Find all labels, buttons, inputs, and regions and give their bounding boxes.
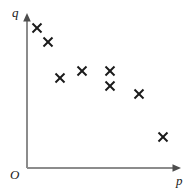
data-point-8	[159, 133, 168, 142]
data-point-4	[78, 67, 87, 76]
data-point-1	[33, 24, 42, 33]
y-axis-arrowhead	[23, 13, 31, 22]
x-axis-label: p	[176, 174, 183, 187]
axes-group	[23, 13, 181, 172]
scatter-plot-figure: q p O	[0, 0, 193, 196]
plot-canvas	[0, 0, 193, 196]
data-point-2	[44, 38, 53, 47]
data-point-3	[56, 74, 65, 83]
y-axis-label: q	[12, 6, 19, 19]
data-point-7	[135, 90, 144, 99]
data-point-5	[106, 67, 115, 76]
origin-label: O	[10, 168, 19, 181]
data-markers-group	[33, 24, 168, 142]
x-axis-arrowhead	[173, 164, 182, 172]
data-point-6	[106, 82, 115, 91]
